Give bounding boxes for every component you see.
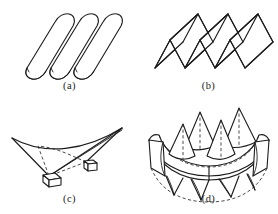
support-block-right xyxy=(84,160,97,171)
panel-c-caption: (c) xyxy=(0,193,139,204)
valley-rib-4 xyxy=(247,174,255,190)
support-right-front xyxy=(88,163,97,171)
support-front-right xyxy=(49,178,61,187)
shell-structures-figure: (a) (b xyxy=(0,0,278,214)
panel-barrel-vault: (a) xyxy=(0,0,139,107)
panel-d-caption: (d) xyxy=(139,193,278,204)
plate-3-right xyxy=(230,14,273,68)
panel-folded-plate: (b) xyxy=(139,0,278,107)
panel-b-caption: (b) xyxy=(139,80,278,91)
support-block-front xyxy=(43,173,61,187)
panel-hypar-umbrella: (d) xyxy=(139,104,278,211)
panel-hypar-saddle: (c) xyxy=(0,104,139,211)
panel-a-caption: (a) xyxy=(0,80,139,91)
